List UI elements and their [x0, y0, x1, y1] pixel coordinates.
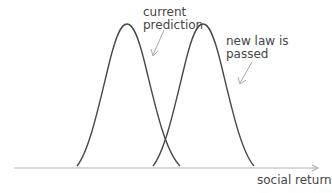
x-axis-label: social return: [257, 174, 332, 187]
curve-current-prediction: [77, 24, 180, 166]
arrow-new-law-passed-icon: [238, 62, 252, 84]
label-line: prediction: [143, 19, 203, 32]
label-new-law-passed: new law is passed: [226, 35, 289, 61]
label-line: passed: [226, 48, 289, 61]
x-axis: [14, 165, 318, 171]
label-current-prediction: current prediction: [143, 6, 203, 32]
arrow-current-prediction-icon: [151, 30, 164, 56]
